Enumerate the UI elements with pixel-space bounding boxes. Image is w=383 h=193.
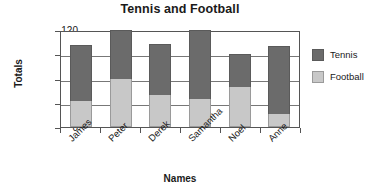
bar-slot — [259, 32, 299, 127]
stacked-bar[interactable] — [268, 46, 290, 127]
legend-label-tennis: Tennis — [330, 49, 357, 60]
legend-item-tennis: Tennis — [312, 48, 380, 61]
x-tick-mark — [100, 128, 101, 133]
x-tick-mark — [60, 128, 61, 133]
y-axis-label: Totals — [13, 44, 24, 104]
bar-segment-tennis[interactable] — [70, 45, 92, 102]
plot-area — [60, 31, 300, 128]
legend: Tennis Football — [312, 48, 380, 92]
stacked-bar[interactable] — [110, 30, 132, 127]
bar-slot — [220, 32, 260, 127]
x-tick-mark — [180, 128, 181, 133]
x-tick-mark — [300, 128, 301, 133]
x-tick-mark — [220, 128, 221, 133]
stacked-bar[interactable] — [189, 30, 211, 127]
bar-segment-tennis[interactable] — [110, 30, 132, 79]
stacked-bar[interactable] — [229, 54, 251, 127]
x-tick-mark — [260, 128, 261, 133]
x-tick-mark — [140, 128, 141, 133]
bar-segment-tennis[interactable] — [189, 30, 211, 99]
chart-title: Tennis and Football — [60, 2, 300, 16]
chart-container: Tennis and Football Totals 0306090120 Ja… — [0, 0, 383, 193]
x-axis-label: Names — [60, 173, 300, 184]
stacked-bar[interactable] — [70, 45, 92, 127]
legend-swatch-tennis-icon — [312, 49, 324, 61]
bar-slot — [140, 32, 180, 127]
bar-slot — [101, 32, 141, 127]
stacked-bar[interactable] — [149, 44, 171, 127]
legend-swatch-football-icon — [312, 71, 324, 83]
bar-segment-tennis[interactable] — [149, 44, 171, 95]
legend-label-football: Football — [330, 71, 364, 82]
legend-item-football: Football — [312, 70, 380, 83]
bar-group — [61, 32, 299, 127]
bar-segment-tennis[interactable] — [268, 46, 290, 114]
bar-segment-tennis[interactable] — [229, 54, 251, 87]
bar-slot — [61, 32, 101, 127]
